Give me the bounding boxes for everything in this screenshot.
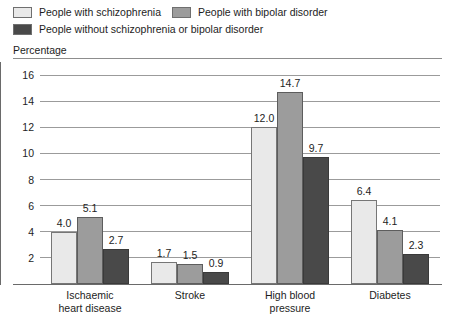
legend-entry-bipolar: People with bipolar disorder bbox=[172, 5, 328, 19]
plot-area: 4.05.12.71.71.50.912.014.79.76.44.12.3 bbox=[40, 62, 440, 284]
y-tick-label: 8 bbox=[4, 175, 34, 186]
chart-legend: People with schizophrenia People with bi… bbox=[0, 0, 456, 44]
y-axis-title: Percentage bbox=[13, 44, 67, 56]
y-tick-label: 14 bbox=[4, 96, 34, 107]
gridline-12 bbox=[40, 127, 440, 128]
legend-label-schizophrenia: People with schizophrenia bbox=[39, 6, 161, 18]
bar bbox=[303, 157, 329, 284]
gridline-10 bbox=[40, 153, 440, 154]
bar-value-label: 2.7 bbox=[97, 235, 135, 246]
bar bbox=[251, 127, 277, 284]
bar bbox=[77, 217, 103, 284]
y-axis-line bbox=[0, 62, 1, 285]
legend-entry-neither: People without schizophrenia or bipolar … bbox=[13, 22, 263, 36]
bar-value-label: 6.4 bbox=[345, 186, 383, 197]
x-category-label-line: Diabetes bbox=[330, 289, 450, 302]
bar-value-label: 2.3 bbox=[397, 240, 435, 251]
bar-value-label: 14.7 bbox=[271, 78, 309, 89]
legend-swatch-bipolar bbox=[172, 7, 191, 18]
x-category-label-line: heart disease bbox=[30, 302, 150, 315]
x-axis-line bbox=[13, 284, 442, 285]
bar bbox=[377, 230, 403, 284]
x-category-label: Diabetes bbox=[330, 289, 450, 302]
y-tick-label: 4 bbox=[4, 227, 34, 238]
legend-swatch-neither bbox=[13, 24, 32, 35]
bar bbox=[151, 262, 177, 284]
y-tick-label: 12 bbox=[4, 122, 34, 133]
bar bbox=[351, 200, 377, 284]
gridline-16 bbox=[40, 75, 440, 76]
bar-value-label: 9.7 bbox=[297, 143, 335, 154]
bar bbox=[403, 254, 429, 284]
gridline-14 bbox=[40, 101, 440, 102]
gridline-8 bbox=[40, 179, 440, 180]
y-tick-label: 2 bbox=[4, 253, 34, 264]
bar bbox=[103, 249, 129, 284]
bar-value-label: 4.1 bbox=[371, 216, 409, 227]
legend-swatch-schizophrenia bbox=[13, 7, 32, 18]
bar bbox=[203, 272, 229, 284]
bar bbox=[51, 232, 77, 284]
bar-chart-figure: People with schizophrenia People with bi… bbox=[0, 0, 456, 318]
bar-value-label: 5.1 bbox=[71, 203, 109, 214]
x-category-label-line: pressure bbox=[230, 302, 350, 315]
axis-title-rule bbox=[13, 58, 442, 59]
bar bbox=[277, 92, 303, 284]
legend-label-neither: People without schizophrenia or bipolar … bbox=[39, 23, 263, 35]
y-tick-label: 10 bbox=[4, 148, 34, 159]
legend-entry-schizophrenia: People with schizophrenia bbox=[13, 5, 161, 19]
y-tick-label: 16 bbox=[4, 70, 34, 81]
legend-label-bipolar: People with bipolar disorder bbox=[198, 6, 328, 18]
y-tick-label: 6 bbox=[4, 201, 34, 212]
bar-value-label: 0.9 bbox=[197, 258, 235, 269]
